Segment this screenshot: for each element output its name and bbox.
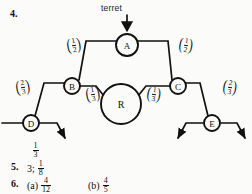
edge-d-to-b [35, 83, 64, 116]
edge-fraction-a-c: ( 1 2 ) [177, 36, 196, 55]
stray-fraction: 1 3 [32, 142, 39, 159]
answer-6b-label: (b) [88, 180, 100, 191]
node-label-d: D [28, 119, 35, 129]
edge-fraction-r-c: ( 1 3 ) [145, 85, 164, 104]
edge-fraction-a-b: ( 1 2 ) [65, 36, 84, 55]
node-label-a: A [124, 41, 131, 51]
node-label-r: R [118, 99, 125, 110]
answer-6a-fraction-denominator: 12 [41, 186, 51, 194]
answer-5-separator: ; [32, 163, 35, 174]
node-label-e: E [209, 119, 215, 129]
edge-a-to-b [79, 41, 116, 80]
edge-d-output-arrow [39, 123, 65, 138]
paren-close: ) [95, 86, 101, 100]
answer-6a: (a) 4 12 [27, 177, 52, 194]
edge-fraction-c-e: ( 2 3 ) [221, 78, 240, 97]
edge-fraction-d-b: ( 2 3 ) [14, 78, 33, 97]
edge-e-output-right-arrow [220, 123, 245, 138]
edge-e-output-left-arrow [178, 123, 204, 138]
answer-6a-label: (a) [27, 180, 38, 191]
edge-a-to-c [138, 41, 172, 80]
question-number-5: 5. [11, 161, 19, 172]
paren-close: ) [76, 37, 82, 51]
edge-c-to-e [186, 83, 208, 116]
edge-fraction-b-r: ( 1 3 ) [84, 85, 103, 104]
answer-6b-fraction-denominator: 5 [103, 186, 109, 194]
answer-6b: (b) 4 5 [88, 177, 109, 194]
paren-close: ) [25, 79, 31, 93]
answer-5: 3; 1 8 [27, 160, 44, 177]
node-label-b: B [69, 82, 75, 92]
node-label-c: C [175, 82, 181, 92]
question-number-6: 6. [11, 178, 19, 189]
stray-fraction-denominator: 3 [33, 151, 39, 159]
answer-key-page: 4. terret [0, 0, 252, 194]
